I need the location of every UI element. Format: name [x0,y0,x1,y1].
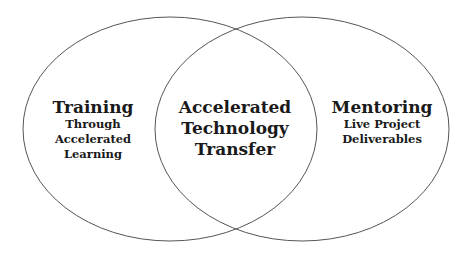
intersection-label: Accelerated Technology Transfer [170,97,300,160]
mentoring-subtitle-line: Deliverables [322,132,442,147]
training-title: Training [38,97,148,117]
training-subtitle-line: Through [38,117,148,132]
intersection-line: Transfer [170,139,300,160]
training-label: Training Through Accelerated Learning [38,97,148,162]
mentoring-subtitle-line: Live Project [322,117,442,132]
mentoring-title: Mentoring [322,97,442,117]
mentoring-label: Mentoring Live Project Deliverables [322,97,442,147]
training-subtitle-line: Learning [38,147,148,162]
intersection-line: Technology [170,118,300,139]
training-subtitle-line: Accelerated [38,132,148,147]
intersection-line: Accelerated [170,97,300,118]
